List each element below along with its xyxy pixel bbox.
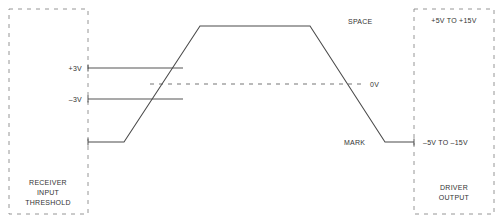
rs232-level-diagram: +3V –3V 0V SPACE MARK +5V TO +15V –5V TO… xyxy=(0,0,503,223)
space-state-label: SPACE xyxy=(348,18,373,25)
mark-state-label: MARK xyxy=(344,139,365,146)
driver-caption-line-2: OUTPUT xyxy=(439,194,470,201)
negative-threshold-label: –3V xyxy=(69,96,82,103)
driver-caption-line-1: DRIVER xyxy=(440,184,468,191)
diagram-canvas: +3V –3V 0V SPACE MARK +5V TO +15V –5V TO… xyxy=(0,0,503,223)
receiver-caption-line-2: INPUT xyxy=(37,189,60,196)
driver-low-range-label: –5V TO –15V xyxy=(423,139,468,146)
driver-high-range-label: +5V TO +15V xyxy=(431,17,476,24)
receiver-caption-line-3: THRESHOLD xyxy=(25,199,70,206)
receiver-caption-line-1: RECEIVER xyxy=(29,179,67,186)
zero-volt-label: 0V xyxy=(370,81,379,88)
positive-threshold-label: +3V xyxy=(69,65,82,72)
